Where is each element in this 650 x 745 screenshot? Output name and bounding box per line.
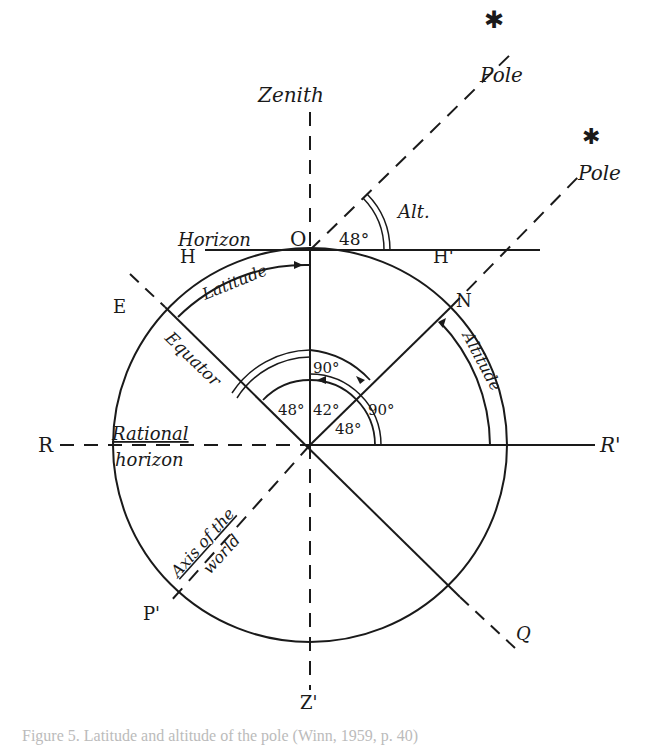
- label-angle-48-top: 48°: [339, 229, 369, 249]
- label-q: Q: [516, 623, 531, 644]
- arc-90-arrow: [356, 376, 365, 384]
- label-altitude: Altitude: [458, 326, 506, 394]
- label-alt: Alt.: [396, 201, 430, 222]
- label-h-left: H: [180, 246, 196, 267]
- label-equator: Equator: [161, 327, 226, 391]
- label-z-prime: Z': [300, 692, 317, 713]
- star-icon-lower: ✱: [582, 124, 600, 149]
- label-angle-48-lower: 48°: [335, 420, 362, 438]
- axis-dash-upper: [450, 175, 580, 308]
- label-horizon-lower: horizon: [115, 449, 184, 470]
- label-rational: Rational: [111, 423, 189, 444]
- label-angle-42: 42°: [313, 401, 340, 419]
- label-pole-upper: Pole: [479, 63, 523, 87]
- label-r-left: R: [38, 433, 54, 457]
- label-e: E: [113, 296, 126, 317]
- arc-42-arrow: [317, 376, 326, 384]
- arc-90-left-outer: [232, 350, 310, 393]
- label-h-right: H': [433, 246, 454, 267]
- latitude-arrow: [294, 261, 303, 269]
- label-angle-48-left: 48°: [278, 401, 305, 419]
- label-n: N: [456, 290, 472, 311]
- figure-caption: Figure 5. Latitude and altitude of the p…: [22, 727, 418, 745]
- label-pole-lower: Pole: [577, 161, 621, 185]
- label-latitude: Latitude: [198, 261, 269, 305]
- arc-48-left: [263, 380, 310, 400]
- label-origin: O: [290, 227, 306, 251]
- label-angle-90-right: 90°: [368, 401, 395, 419]
- label-zenith: Zenith: [257, 83, 324, 107]
- star-icon: ✱: [484, 6, 504, 34]
- equator-dash-upper: [130, 274, 165, 307]
- label-p-prime: P': [143, 603, 160, 624]
- label-angle-90-upper: 90°: [313, 359, 340, 377]
- axis-dash-lower: [170, 445, 310, 602]
- equator-dash-lower: [460, 597, 515, 648]
- label-r-right: R': [599, 433, 621, 457]
